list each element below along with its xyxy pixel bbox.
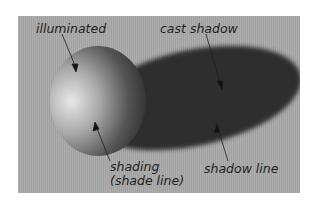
label-shadow-line: shadow line (204, 162, 278, 176)
label-cast-shadow: cast shadow (160, 22, 238, 36)
label-shading: shading (110, 160, 159, 174)
label-illuminated: illuminated (36, 22, 106, 36)
sphere-shape (50, 46, 146, 156)
label-shade-line: (shade line) (110, 174, 184, 188)
illustration-photo: illuminated cast shadow shading (shade l… (18, 16, 300, 193)
